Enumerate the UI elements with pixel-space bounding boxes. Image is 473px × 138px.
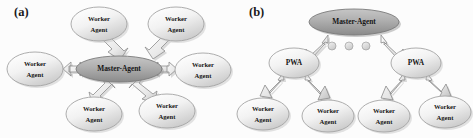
node-a-worker-2-line1: Worker — [165, 15, 187, 22]
node-a-master-agent-label: Master-Agent — [97, 64, 141, 73]
node-a-worker-1[interactable]: Worker Agent — [71, 7, 129, 43]
node-b-worker-1[interactable]: Worker Agent — [237, 98, 291, 132]
node-a-worker-3-line1: Worker — [24, 60, 46, 67]
node-b-pwa-right-label: PWA — [408, 58, 425, 67]
node-b-master-agent-label: Master-Agent — [332, 17, 376, 26]
panel-a-diagram: Worker Agent Worker Agent Worker Agent W… — [0, 0, 237, 138]
ellipsis-dot-2 — [345, 42, 353, 50]
node-a-worker-5-line2: Agent — [86, 116, 104, 123]
node-a-worker-2[interactable]: Worker Agent — [148, 7, 206, 43]
node-b-master-agent[interactable]: Master-Agent — [309, 9, 401, 37]
node-b-pwa-left-label: PWA — [286, 58, 303, 67]
ellipsis-dot-1 — [328, 42, 336, 50]
node-a-worker-5[interactable]: Worker Agent — [66, 97, 124, 133]
node-b-worker-2-line2: Agent — [320, 118, 338, 125]
panel-a-label: (a) — [14, 5, 29, 20]
node-a-worker-1-line1: Worker — [88, 15, 110, 22]
node-a-worker-1-line2: Agent — [91, 26, 109, 33]
panel-b-hierarchical-topology: (b) — [236, 0, 473, 138]
panel-a-star-topology: (a) — [0, 0, 237, 138]
node-b-worker-4-line1: Worker — [434, 103, 456, 110]
ellipsis-dots — [328, 42, 370, 50]
node-a-worker-5-line1: Worker — [83, 105, 105, 112]
node-b-worker-4-line2: Agent — [437, 114, 455, 121]
node-a-master-agent[interactable]: Master-Agent — [76, 56, 164, 84]
node-a-worker-4-line1: Worker — [192, 61, 214, 68]
node-a-worker-6-line1: Worker — [156, 102, 178, 109]
node-a-worker-4[interactable]: Worker Agent — [175, 53, 233, 89]
ellipsis-dot-3 — [362, 42, 370, 50]
figure-root: (a) — [0, 0, 473, 138]
node-b-worker-4[interactable]: Worker Agent — [419, 96, 473, 130]
node-b-worker-2-line1: Worker — [317, 107, 339, 114]
panel-b-diagram: Worker Agent Worker Agent Worker Agent W… — [236, 0, 473, 138]
node-b-worker-3[interactable]: Worker Agent — [358, 100, 412, 134]
node-a-worker-3[interactable]: Worker Agent — [7, 52, 65, 88]
node-b-worker-3-line2: Agent — [376, 118, 394, 125]
node-a-worker-6[interactable]: Worker Agent — [139, 94, 197, 130]
node-b-worker-1-line1: Worker — [252, 105, 274, 112]
arrow-pwa-right-worker-3 — [381, 73, 407, 102]
node-b-pwa-right[interactable]: PWA — [391, 48, 443, 80]
node-b-worker-3-line1: Worker — [373, 107, 395, 114]
node-b-worker-1-line2: Agent — [255, 116, 273, 123]
node-a-worker-6-line2: Agent — [159, 113, 177, 120]
panel-b-label: (b) — [249, 5, 264, 20]
node-a-worker-4-line2: Agent — [195, 72, 213, 79]
node-a-worker-2-line2: Agent — [168, 26, 186, 33]
node-b-worker-2[interactable]: Worker Agent — [302, 100, 356, 134]
node-a-worker-3-line2: Agent — [27, 71, 45, 78]
